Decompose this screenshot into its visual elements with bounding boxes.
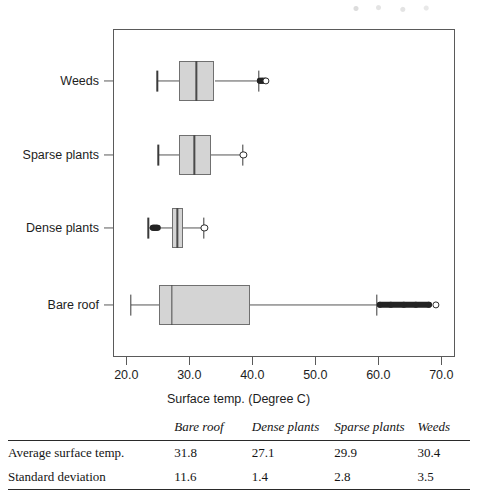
x-tick-mark <box>126 357 127 365</box>
table-cell: 11.6 <box>174 465 251 490</box>
table-header-sparse-plants: Sparse plants <box>334 417 417 441</box>
table-row: Average surface temp.31.827.129.930.4 <box>8 441 470 466</box>
chart-canvas: WeedsSparse plantsDense plantsBare roof … <box>0 0 477 410</box>
table-cell: 29.9 <box>334 441 417 466</box>
summary-statistics-table: Bare roof Dense plants Sparse plants Wee… <box>8 417 470 490</box>
table-body: Average surface temp.31.827.129.930.4Sta… <box>8 441 470 490</box>
table-cell: 3.5 <box>417 465 470 490</box>
x-axis-title: Surface temp. (Degree C) <box>0 392 477 406</box>
table-row: Standard deviation11.61.42.83.5 <box>8 465 470 490</box>
whisker-cap-low <box>130 295 131 316</box>
table-cell: 27.1 <box>252 441 334 466</box>
outlier-point <box>425 302 431 308</box>
boxplot-bare-roof <box>0 0 477 410</box>
table-header-blank <box>8 417 174 441</box>
x-tick-mark <box>252 357 253 365</box>
outlier-point-open <box>433 301 440 308</box>
whisker-line-low <box>131 304 159 305</box>
table-row-label: Average surface temp. <box>8 441 174 466</box>
x-tick-label: 20.0 <box>114 368 138 382</box>
table-header-dense-plants: Dense plants <box>252 417 334 441</box>
median-line <box>171 285 172 325</box>
table-row-label: Standard deviation <box>8 465 174 490</box>
x-tick-mark <box>315 357 316 365</box>
box-iqr <box>159 285 250 325</box>
table-header-weeds: Weeds <box>417 417 470 441</box>
table-header-bare-roof: Bare roof <box>174 417 251 441</box>
whisker-line-high <box>250 304 377 305</box>
table-header-row: Bare roof Dense plants Sparse plants Wee… <box>8 417 470 441</box>
table-cell: 31.8 <box>174 441 251 466</box>
x-tick-mark <box>189 357 190 365</box>
table-cell: 30.4 <box>417 441 470 466</box>
x-tick-mark <box>441 357 442 365</box>
x-tick-label: 60.0 <box>366 368 390 382</box>
x-tick-label: 30.0 <box>177 368 201 382</box>
x-tick-mark <box>378 357 379 365</box>
table-cell: 2.8 <box>334 465 417 490</box>
table-cell: 1.4 <box>252 465 334 490</box>
x-tick-label: 50.0 <box>303 368 327 382</box>
x-tick-label: 40.0 <box>240 368 264 382</box>
x-tick-label: 70.0 <box>429 368 453 382</box>
